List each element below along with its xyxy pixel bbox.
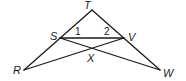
- angle-label-1: 1: [75, 26, 81, 37]
- point-label-V: V: [128, 31, 137, 43]
- point-label-W: W: [163, 67, 175, 79]
- point-label-S: S: [50, 30, 58, 42]
- angle-label-2: 2: [104, 26, 110, 37]
- segment-TW: [92, 10, 160, 70]
- segment-TR: [24, 10, 92, 70]
- point-label-T: T: [84, 0, 92, 11]
- geometry-diagram: T S V X R W 1 2: [0, 0, 186, 81]
- point-label-X: X: [86, 52, 95, 64]
- point-label-R: R: [13, 64, 21, 76]
